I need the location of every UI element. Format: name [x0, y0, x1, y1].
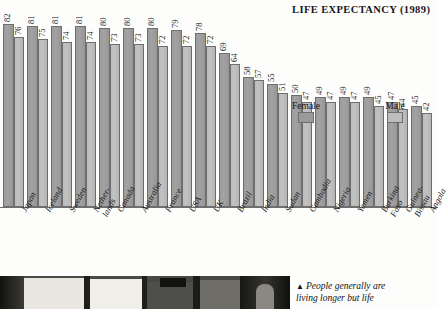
legend-label-female: Female	[278, 101, 334, 111]
bar-group: 5857	[243, 17, 264, 207]
bar-value-label: 47	[301, 92, 311, 100]
bar-group: 6964	[219, 17, 240, 207]
bar-female	[27, 26, 38, 207]
bar-value-label: 49	[314, 87, 324, 95]
bar-male	[134, 44, 145, 207]
bar-male	[254, 80, 265, 207]
bar-female	[219, 53, 230, 207]
bar-value-label: 47	[325, 92, 335, 100]
bar-group: 8072	[147, 17, 168, 207]
bar-male	[14, 37, 25, 207]
bar-value-label: 80	[146, 18, 156, 26]
bar-female	[51, 26, 62, 207]
caption-line-2: living longer but life	[296, 293, 374, 303]
x-axis-category-labels: JapanIcelandSwedenNether-landsCanadaAust…	[0, 209, 438, 271]
bar-value-label: 73	[133, 34, 143, 42]
bar-male	[182, 46, 193, 207]
bar-male	[230, 64, 241, 207]
bar-male	[38, 39, 49, 207]
bar-male	[86, 42, 97, 207]
bar-value-label: 81	[26, 16, 36, 24]
bar-male	[110, 44, 121, 207]
bar-group: 8073	[123, 17, 144, 207]
bar-value-label: 47	[349, 92, 359, 100]
bar-value-label: 79	[170, 20, 180, 28]
bar-value-label: 82	[2, 14, 12, 22]
bar-group: 8276	[3, 17, 24, 207]
legend-swatch-male	[387, 112, 403, 123]
bar-value-label: 72	[205, 36, 215, 44]
bar-group: 7872	[195, 17, 216, 207]
bar-male	[206, 46, 217, 207]
bar-value-label: 74	[61, 32, 71, 40]
bar-value-label: 72	[181, 36, 191, 44]
bar-female	[171, 30, 182, 207]
bar-group: 8073	[99, 17, 120, 207]
bar-value-label: 80	[98, 18, 108, 26]
bar-value-label: 49	[362, 87, 372, 95]
bar-value-label: 50	[290, 85, 300, 93]
figure-caption: ▲People generally are living longer but …	[296, 281, 438, 309]
bar-male	[62, 42, 73, 207]
bar-female	[99, 28, 110, 207]
bar-value-label: 76	[13, 27, 23, 35]
legend-item-female: Female	[278, 101, 334, 123]
bar-group: 8174	[51, 17, 72, 207]
bar-value-label: 74	[85, 32, 95, 40]
photograph	[0, 276, 290, 309]
bar-value-label: 49	[338, 87, 348, 95]
bar-female	[267, 84, 278, 207]
legend-label-male: Male	[372, 101, 418, 111]
bar-value-label: 72	[157, 36, 167, 44]
bar-value-label: 75	[37, 29, 47, 37]
bar-female	[243, 77, 254, 207]
bar-female	[195, 33, 206, 207]
bar-value-label: 73	[109, 34, 119, 42]
bar-group: 8174	[75, 17, 96, 207]
bar-group: 7972	[171, 17, 192, 207]
bar-female	[75, 26, 86, 207]
chart-legend: Female Male	[278, 101, 428, 131]
bar-value-label: 58	[242, 67, 252, 75]
bar-value-label: 64	[229, 54, 239, 62]
bar-female	[3, 24, 14, 207]
bar-value-label: 81	[74, 16, 84, 24]
triangle-icon: ▲	[296, 282, 304, 291]
bar-group: 8175	[27, 17, 48, 207]
bar-value-label: 80	[122, 18, 132, 26]
legend-swatch-female	[298, 112, 314, 123]
legend-item-male: Male	[372, 101, 418, 123]
caption-line-1: People generally are	[306, 281, 385, 291]
bar-value-label: 81	[50, 16, 60, 24]
bar-value-label: 69	[218, 43, 228, 51]
bar-value-label: 47	[386, 92, 396, 100]
bar-value-label: 55	[266, 74, 276, 82]
bar-value-label: 78	[194, 23, 204, 31]
bar-value-label: 57	[253, 70, 263, 78]
bar-value-label: 51	[277, 83, 287, 91]
bar-female	[123, 28, 134, 207]
